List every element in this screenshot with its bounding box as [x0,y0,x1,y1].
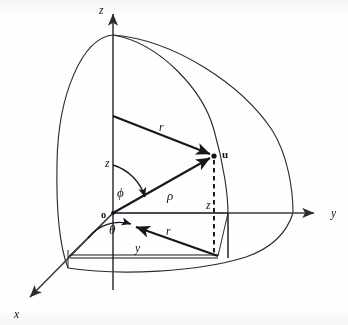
segment-label-z-dashed: z [205,199,211,211]
segment-label-r-upper: r [159,121,164,133]
meridian-through-u-arc [113,35,228,213]
segment-label-r-lower: r [166,225,171,237]
segment-label-rho: ρ [166,188,173,203]
sphere-octant-outline [57,35,293,272]
vector-group [111,116,218,256]
spherical-coordinates-figure: z y x u o r ρ r z z y ϕ θ [0,0,348,325]
angle-label-phi: ϕ [117,185,124,200]
meridian-left-arc [57,35,113,268]
point-origin-dot [111,211,115,215]
segment-label-z-axis: z [104,157,110,169]
angle-label-theta: θ [109,222,116,237]
point-u-dot [211,153,216,158]
segment-label-y-base: y [134,242,141,255]
segment-radius-r-lower [136,227,218,256]
point-label-u: u [222,148,228,160]
origin-label-o: o [101,209,106,220]
diagram-canvas: z y x u o r ρ r z z y ϕ θ [0,0,348,325]
base-edge-far [218,213,228,256]
axis-label-x: x [13,308,20,320]
axis-label-y: y [330,207,337,220]
axis-label-z: z [98,4,104,16]
segment-radius-rho [113,158,210,213]
